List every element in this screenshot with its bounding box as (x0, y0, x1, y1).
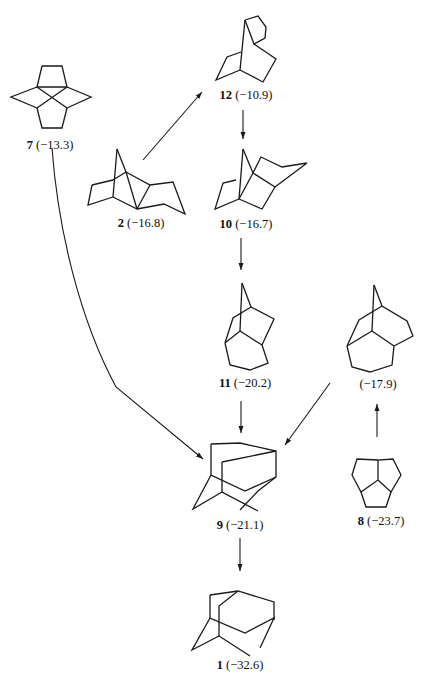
compound-number-11: 11 (219, 376, 231, 390)
label-2: 2 (−16.8) (118, 216, 165, 231)
label-8: 8 (−23.7) (358, 514, 405, 529)
structure-unlabeled (347, 285, 413, 372)
reaction-diagram (0, 0, 424, 677)
compound-value-1: (−32.6) (226, 658, 263, 672)
arrow-7-to-9 (52, 148, 203, 459)
label-10: 10 (−16.7) (220, 217, 273, 232)
compound-number-1: 1 (217, 658, 223, 672)
label-7: 7 (−13.3) (27, 138, 74, 153)
structure-12 (216, 16, 276, 82)
arrow-unlabeled-to-9 (285, 383, 330, 445)
structure-11 (225, 283, 274, 370)
arrow-2-to-12 (143, 92, 202, 160)
label-9: 9 (−21.1) (217, 518, 264, 533)
compound-value-unlabeled: (−17.9) (359, 377, 396, 391)
label-11: 11 (−20.2) (219, 376, 271, 391)
compound-number-9: 9 (217, 518, 223, 532)
structure-8 (352, 459, 401, 507)
compound-number-8: 8 (358, 514, 364, 528)
compound-value-7: (−13.3) (36, 138, 73, 152)
structure-7 (11, 66, 91, 128)
compound-number-2: 2 (118, 216, 124, 230)
compound-number-7: 7 (27, 138, 33, 152)
compound-value-2: (−16.8) (127, 216, 164, 230)
label-unlabeled: (−17.9) (359, 377, 396, 392)
compound-value-8: (−23.7) (367, 514, 404, 528)
compound-number-12: 12 (220, 88, 233, 102)
compound-value-10: (−16.7) (235, 217, 272, 231)
compound-value-12: (−10.9) (235, 88, 272, 102)
structure-9 (193, 443, 276, 511)
label-1: 1 (−32.6) (217, 658, 264, 673)
structure-1 (192, 591, 274, 656)
compound-value-11: (−20.2) (234, 376, 271, 390)
structure-10 (215, 149, 307, 209)
compound-value-9: (−21.1) (226, 518, 263, 532)
compound-number-10: 10 (220, 217, 233, 231)
label-12: 12 (−10.9) (220, 88, 273, 103)
structure-2 (88, 149, 185, 214)
